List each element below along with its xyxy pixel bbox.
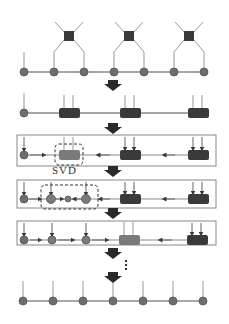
down-arrow-icon [104,123,122,134]
svd-label: SVD [52,164,77,176]
down-arrow-icon [104,272,122,283]
gate-tensor [54,22,84,72]
gate-tensor [174,22,204,72]
down-arrow-icon [104,248,122,259]
stage-4-after-svd [17,180,216,209]
down-arrow-icon [104,208,122,219]
down-arrow-icon [104,166,122,177]
ellipsis-icon [125,260,127,270]
stage-6-final-mps [19,281,207,305]
down-arrow-icon [104,80,122,91]
gate-tensor [114,22,144,72]
tensor-network-diagram [0,0,229,324]
stage-5-next-block [17,221,216,245]
stage-2-contracted [20,93,209,118]
stage-3-canonical [17,135,216,166]
stage-1-mps-with-gates [20,22,208,76]
